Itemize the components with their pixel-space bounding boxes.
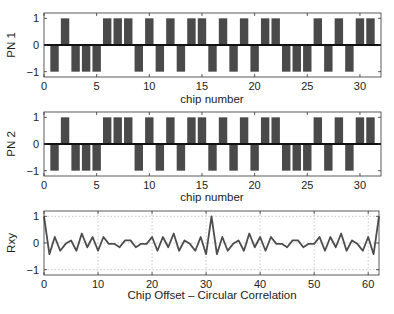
bar	[124, 117, 132, 144]
correlation-x-axis-label: Chip Offset – Circular Correlation	[127, 289, 296, 301]
bar	[114, 117, 122, 144]
bar	[50, 45, 58, 72]
x-tick-label: 25	[301, 179, 313, 191]
bar	[135, 144, 143, 171]
bar	[356, 117, 364, 144]
x-tick-label: 20	[249, 179, 261, 191]
bar	[71, 144, 79, 171]
bar	[345, 144, 353, 171]
bar	[71, 45, 79, 72]
bar	[345, 45, 353, 72]
bar	[50, 144, 58, 171]
bar	[166, 18, 174, 45]
y-tick-label: 0	[33, 39, 39, 51]
x-tick-label: 0	[41, 278, 47, 290]
correlation-line	[44, 216, 379, 254]
bar	[103, 117, 111, 144]
bar	[240, 117, 248, 144]
y-tick-label: 1	[33, 111, 39, 123]
bar	[261, 117, 269, 144]
bar	[177, 45, 185, 72]
pn1-y-axis-label: PN 1	[5, 32, 17, 58]
bar	[282, 144, 290, 171]
bar	[314, 18, 322, 45]
y-tick-label: −1	[26, 264, 39, 276]
bar	[261, 18, 269, 45]
bar	[187, 117, 195, 144]
pn1-plot: 051015202530 −101 PN 1 chip number	[5, 12, 381, 105]
y-tick-label: 1	[33, 12, 39, 24]
pn2-y-axis-label: PN 2	[5, 131, 17, 157]
bar	[198, 18, 206, 45]
x-tick-label: 5	[94, 179, 100, 191]
pn1-bars	[44, 18, 381, 71]
y-tick-label: 1	[33, 210, 39, 222]
correlation-y-axis-label: Rxy	[5, 233, 17, 253]
bar	[103, 18, 111, 45]
x-tick-label: 10	[143, 179, 155, 191]
bar	[187, 18, 195, 45]
x-tick-label: 30	[354, 179, 366, 191]
bar	[135, 45, 143, 72]
bar	[82, 144, 90, 171]
bar	[250, 144, 258, 171]
x-tick-label: 50	[308, 278, 320, 290]
bar	[282, 45, 290, 72]
bar	[335, 18, 343, 45]
bar	[61, 18, 69, 45]
bar	[303, 144, 311, 171]
bar	[61, 117, 69, 144]
bar	[303, 45, 311, 72]
bar	[219, 18, 227, 45]
bar	[271, 117, 279, 144]
bar	[156, 144, 164, 171]
bar	[145, 117, 153, 144]
bar	[145, 18, 153, 45]
bar	[229, 144, 237, 171]
bar	[177, 144, 185, 171]
pn2-x-axis-label: chip number	[180, 191, 243, 203]
bar	[335, 117, 343, 144]
bar	[324, 45, 332, 72]
bar	[229, 45, 237, 72]
bar	[240, 18, 248, 45]
x-tick-label: 60	[362, 278, 374, 290]
bar	[219, 117, 227, 144]
bar	[250, 45, 258, 72]
bar	[271, 18, 279, 45]
x-tick-label: 0	[41, 179, 47, 191]
bar	[124, 18, 132, 45]
bar	[166, 117, 174, 144]
bar	[92, 144, 100, 171]
pn2-bars	[44, 117, 381, 170]
bar	[208, 144, 216, 171]
y-tick-label: −1	[26, 165, 39, 177]
bar	[324, 144, 332, 171]
bar	[92, 45, 100, 72]
correlation-plot: 0102030405060 −101 Rxy Chip Offset – Cir…	[5, 210, 379, 301]
y-tick-label: 0	[33, 237, 39, 249]
x-tick-label: 0	[41, 80, 47, 92]
bar	[156, 45, 164, 72]
y-tick-label: 0	[33, 138, 39, 150]
pn2-plot: 051015202530 −101 PN 2 chip number	[5, 111, 381, 203]
bar	[366, 18, 374, 45]
bar	[82, 45, 90, 72]
x-tick-label: 30	[354, 80, 366, 92]
bar	[314, 117, 322, 144]
bar	[356, 18, 364, 45]
bar	[198, 117, 206, 144]
x-tick-label: 5	[94, 80, 100, 92]
figure: 051015202530 −101 PN 1 chip number 05101…	[0, 0, 394, 314]
pn1-x-axis-label: chip number	[180, 93, 243, 105]
x-tick-label: 15	[196, 179, 208, 191]
bar	[293, 144, 301, 171]
x-tick-label: 20	[249, 80, 261, 92]
x-tick-label: 10	[143, 80, 155, 92]
y-tick-label: −1	[26, 66, 39, 78]
bar	[208, 45, 216, 72]
bar	[114, 18, 122, 45]
bar	[293, 45, 301, 72]
x-tick-label: 15	[196, 80, 208, 92]
bar	[366, 117, 374, 144]
